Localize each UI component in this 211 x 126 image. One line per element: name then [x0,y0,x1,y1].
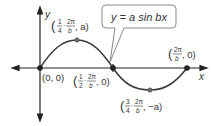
minimum-point [148,88,153,93]
svg-text:, 0): , 0) [96,76,110,87]
x-axis-right-arrow-icon [200,66,207,71]
svg-text:1: 1 [79,73,83,80]
sine-graph: y = a sin bx y x (0, 0) ( 1 4 · 2π b , a… [0,0,211,126]
period-end-label: ( 2π b , 0) [168,46,196,62]
y-axis-down-arrow-icon [38,114,43,121]
zero-mid-point [110,65,116,71]
svg-text:b: b [68,27,72,34]
svg-text:, −a): , −a) [143,101,162,112]
x-axis-left-arrow-icon [12,66,19,71]
svg-text:3: 3 [126,98,130,105]
svg-text:b: b [136,107,140,114]
svg-text:·: · [131,102,133,109]
svg-text:4: 4 [58,27,62,34]
minimum-label: ( 3 4 · 2π b , −a) [120,98,162,114]
svg-text:, 0): , 0) [182,49,196,60]
x-axis-label: x [198,71,205,82]
origin-label: (0, 0) [42,72,64,83]
y-axis-label: y [44,9,51,20]
svg-text:1: 1 [58,18,62,25]
svg-text:, a): , a) [75,21,89,32]
equation-callout: y = a sin bx [102,5,176,62]
svg-text:(: ( [120,98,125,113]
svg-text:b: b [89,82,93,89]
period-end-point [184,65,190,71]
origin-point [37,65,43,71]
svg-text:·: · [63,22,65,29]
maximum-point [75,38,80,43]
svg-text:(: ( [73,73,78,88]
svg-text:2: 2 [79,82,83,89]
svg-text:(: ( [168,46,173,61]
maximum-label: ( 1 4 · 2π b , a) [51,18,89,34]
svg-text:b: b [175,55,179,62]
equation-label: y = a sin bx [110,11,167,23]
svg-text:4: 4 [126,107,130,114]
svg-text:(: ( [51,18,56,33]
zero-mid-label: ( 1 2 · 2π b , 0) [73,73,110,89]
svg-text:·: · [84,77,86,84]
y-axis-up-arrow-icon [38,7,43,14]
